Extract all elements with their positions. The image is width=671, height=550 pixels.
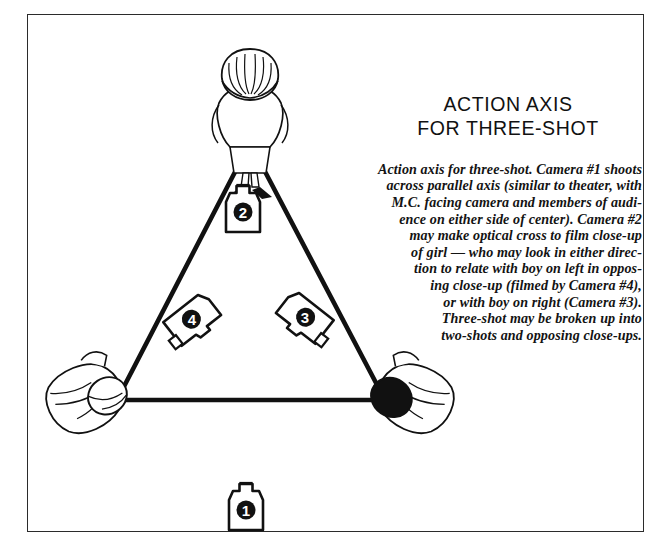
camera-2: 2 (226, 185, 260, 232)
figure-title: ACTION AXIS FOR THREE-SHOT (374, 92, 642, 141)
caption-line: M.C. facing camera and members of audi- (374, 194, 642, 211)
subject-boy-right (362, 346, 466, 447)
caption-line: ence on either side of center). Camera #… (374, 211, 642, 228)
caption-line: Action axis for three-shot. Camera #1 sh… (374, 161, 642, 178)
figure-title-line-1: ACTION AXIS (374, 92, 642, 116)
camera-1: 1 (229, 483, 263, 530)
axis-line-right (250, 143, 385, 400)
figure-title-line-2: FOR THREE-SHOT (374, 116, 642, 140)
caption-line: across parallel axis (similar to theater… (374, 177, 642, 194)
caption-line: Three-shot may be broken up into (374, 310, 642, 327)
text-panel: ACTION AXIS FOR THREE-SHOT Action axis f… (374, 92, 642, 343)
caption-line: tion to relate with boy on left in oppos… (374, 260, 642, 277)
caption-line: two-shots and opposing close-ups. (374, 327, 642, 344)
caption-line: may make optical cross to film close-up (374, 227, 642, 244)
subject-boy-left (34, 346, 138, 447)
figure-caption: Action axis for three-shot. Camera #1 sh… (374, 161, 642, 344)
subject-girl (212, 49, 288, 199)
caption-line: or with boy on right (Camera #3). (374, 294, 642, 311)
caption-line: ing close-up (filmed by Camera #4), (374, 277, 642, 294)
camera-2-number: 2 (239, 204, 247, 221)
camera-4-number: 4 (188, 311, 197, 328)
camera-3-number: 3 (301, 309, 309, 326)
axis-line-left (117, 143, 250, 400)
caption-line: of girl — who may look in either direc- (374, 244, 642, 261)
figure-page: 2 1 4 3 ACTION AXIS FOR THREE-SHOT Actio… (0, 0, 671, 550)
camera-1-number: 1 (242, 502, 250, 519)
